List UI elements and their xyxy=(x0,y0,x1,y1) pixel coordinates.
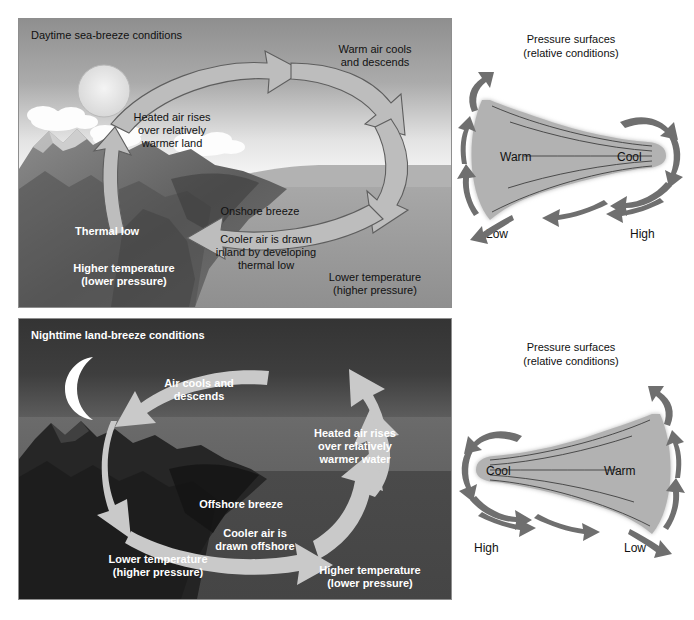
high-label-night: High xyxy=(474,541,499,555)
rises-line-3: warmer land xyxy=(142,137,203,149)
cools-line-2: descends xyxy=(174,390,225,402)
land-temp-line-1: Higher temperature xyxy=(73,262,174,274)
drawn-line-1: Cooler air is drawn xyxy=(220,233,312,245)
pressure-surface-graphic-day: Warm Cool Low High xyxy=(452,22,690,262)
land-temperature-label: Lower temperature (higher pressure) xyxy=(83,553,233,579)
daytime-sea-breeze-panel: Daytime sea-breeze conditions Heated air… xyxy=(18,18,452,308)
rises-line-2: over relatively xyxy=(318,440,392,452)
land-temp-line-1: Lower temperature xyxy=(108,553,207,565)
sea-temp-line-1: Lower temperature xyxy=(329,271,421,283)
cool-label-day: Cool xyxy=(617,150,642,164)
panel-title: Nighttime land-breeze conditions xyxy=(31,329,205,342)
land-temp-line-2: (lower pressure) xyxy=(81,275,167,287)
offshore-breeze-label: Offshore breeze xyxy=(185,498,297,511)
sun-icon xyxy=(78,65,130,117)
rises-line-1: Heated air rises xyxy=(314,427,396,439)
heated-air-rises-label: Heated air rises over relatively warmer … xyxy=(287,427,423,466)
sea-temp-line-2: (lower pressure) xyxy=(327,577,413,589)
sea-temperature-label: Lower temperature (higher pressure) xyxy=(311,271,439,297)
nighttime-land-breeze-panel: Nighttime land-breeze conditions Air coo… xyxy=(18,318,452,600)
rises-line-3: warmer water xyxy=(320,453,391,465)
pressure-surfaces-daytime: Pressure surfaces (relative conditions) … xyxy=(452,22,690,262)
pressure-surfaces-nighttime: Pressure surfaces (relative conditions) xyxy=(452,336,690,586)
drawn-line-2: drawn offshore xyxy=(215,540,294,552)
pressure-surface-graphic-night: Cool Warm High Low xyxy=(452,336,690,586)
cool-label-night: Cool xyxy=(486,464,511,478)
sea-temp-line-1: Higher temperature xyxy=(319,564,420,576)
panel-title: Daytime sea-breeze conditions xyxy=(31,29,182,42)
cools-line-1: Air cools and xyxy=(164,377,234,389)
warm-label-day: Warm xyxy=(500,150,532,164)
low-label-night: Low xyxy=(624,541,646,555)
sea-temp-line-2: (higher pressure) xyxy=(333,284,417,296)
rises-line-1: Heated air rises xyxy=(133,111,210,123)
cooler-air-drawn-label: Cooler air is drawn offshore xyxy=(197,527,313,553)
drawn-line-2: inland by developing xyxy=(216,246,316,258)
onshore-breeze-label: Onshore breeze xyxy=(205,205,315,218)
cooler-air-drawn-label: Cooler air is drawn inland by developing… xyxy=(201,233,331,272)
heated-air-rises-label: Heated air rises over relatively warmer … xyxy=(107,111,237,150)
cools-line-1: Warm air cools xyxy=(339,43,412,55)
warm-label-night: Warm xyxy=(604,464,636,478)
air-cools-descends-label: Air cools and descends xyxy=(139,377,259,403)
drawn-line-3: thermal low xyxy=(238,259,294,271)
high-label-day: High xyxy=(630,227,655,241)
cools-line-2: and descends xyxy=(341,56,410,68)
land-temp-line-2: (higher pressure) xyxy=(113,566,203,578)
sea-temperature-label: Higher temperature (lower pressure) xyxy=(299,564,441,590)
warm-air-cools-label: Warm air cools and descends xyxy=(315,43,435,69)
drawn-line-1: Cooler air is xyxy=(223,527,287,539)
rises-line-2: over relatively xyxy=(138,124,206,136)
land-temperature-label: Higher temperature (lower pressure) xyxy=(49,262,199,288)
thermal-low-label: Thermal low xyxy=(75,225,139,238)
